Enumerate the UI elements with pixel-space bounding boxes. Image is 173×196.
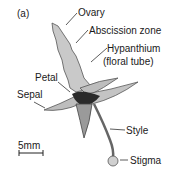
petal-lower	[76, 104, 92, 138]
style-shape	[94, 104, 113, 158]
label-floral-tube: (floral tube)	[103, 56, 154, 67]
stigma-shape	[108, 156, 118, 166]
label-style: Style	[126, 125, 148, 136]
label-sepal: Sepal	[17, 89, 43, 100]
label-petal: Petal	[35, 72, 58, 83]
label-ovary: Ovary	[78, 7, 105, 18]
panel-label: (a)	[17, 8, 29, 19]
label-stigma: Stigma	[130, 155, 161, 166]
label-hypanthium: Hypanthium	[107, 43, 160, 54]
label-abscission-zone: Abscission zone	[89, 25, 161, 36]
scale-bar-label: 5mm	[18, 140, 40, 151]
